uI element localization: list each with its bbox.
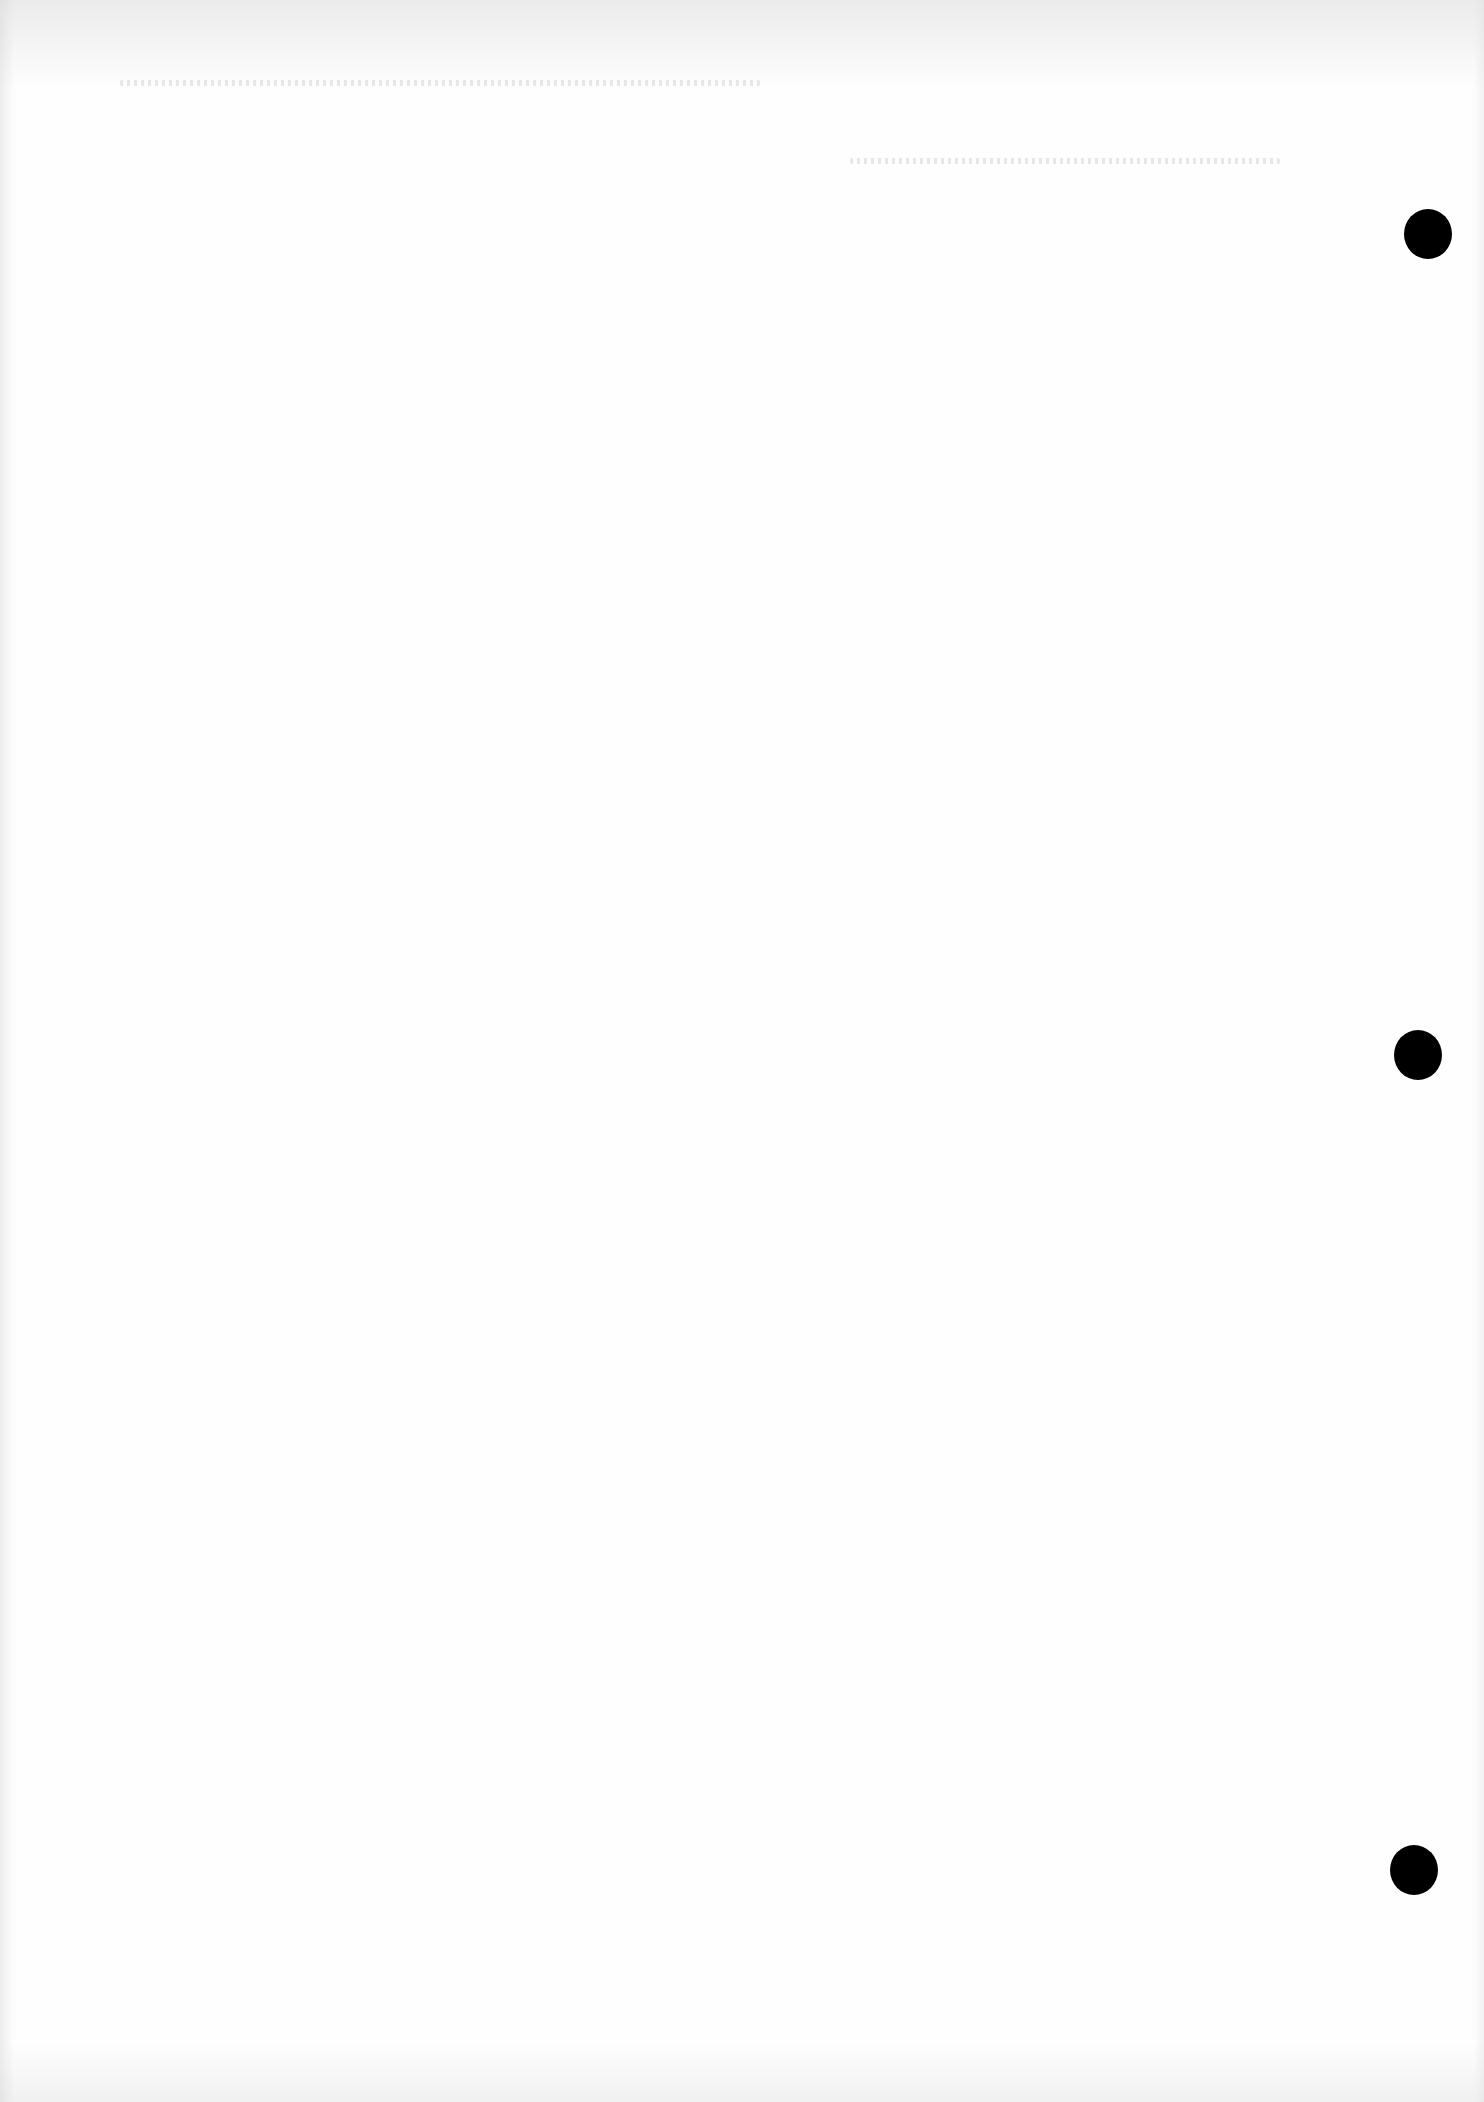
bleed-through-line: [120, 80, 760, 86]
scanned-page: [0, 0, 1484, 2102]
bleed-through-line: [850, 158, 1280, 164]
scan-edge-shading-right: [1474, 0, 1484, 2102]
punch-hole: [1390, 1845, 1438, 1895]
scan-edge-shading-top: [0, 0, 1484, 90]
scan-edge-shading-bottom: [0, 2042, 1484, 2102]
punch-hole: [1394, 1030, 1442, 1080]
scan-edge-shading-left: [0, 0, 14, 2102]
punch-hole: [1404, 209, 1452, 259]
